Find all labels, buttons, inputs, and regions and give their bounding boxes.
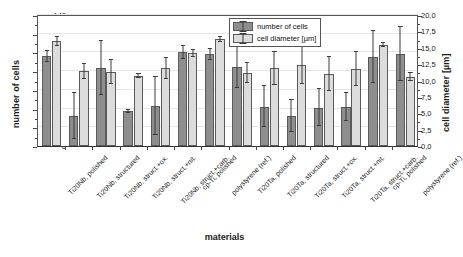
y-tick-label-right: 0,0 xyxy=(421,142,431,151)
bar-group xyxy=(337,14,364,146)
error-cap xyxy=(218,41,222,42)
x-category-label: polystyrene (ref.) xyxy=(421,154,463,196)
bar-cell-diameter xyxy=(79,71,88,146)
error-bar xyxy=(237,47,238,88)
error-cap xyxy=(44,61,48,62)
error-cap xyxy=(272,51,276,52)
bar-cell-diameter-rect xyxy=(188,53,197,146)
bar-cell-diameter-rect xyxy=(243,73,252,146)
bar-group xyxy=(201,14,228,146)
x-tick xyxy=(365,146,366,150)
error-bar xyxy=(264,86,265,127)
bar-cell-diameter xyxy=(215,39,224,146)
x-tick xyxy=(65,146,66,150)
error-cap xyxy=(381,46,385,47)
error-cap xyxy=(208,48,212,49)
error-cap xyxy=(126,112,130,113)
bar-cell-diameter xyxy=(351,69,360,146)
error-cap xyxy=(344,92,348,93)
bar-cell-diameter xyxy=(188,53,197,146)
error-bar xyxy=(301,45,302,84)
y-tick-label-right: 5,0 xyxy=(421,109,431,118)
bar-number-of-cells xyxy=(287,116,296,146)
bar-cell-diameter xyxy=(297,65,306,146)
bar-group xyxy=(365,14,392,146)
error-cap xyxy=(208,59,212,60)
error-cap xyxy=(44,50,48,51)
error-bar xyxy=(165,58,166,79)
x-tick xyxy=(337,146,338,150)
bar-cell-diameter xyxy=(379,45,388,146)
error-bar xyxy=(373,31,374,83)
bar-cell-diameter-rect xyxy=(79,71,88,146)
error-cap xyxy=(371,30,375,31)
bar-cell-diameter-rect xyxy=(379,45,388,146)
error-cap xyxy=(153,134,157,135)
error-cap xyxy=(408,72,412,73)
y-tick-left xyxy=(33,147,37,148)
error-bar xyxy=(345,93,346,121)
x-tick xyxy=(229,146,230,150)
error-cap xyxy=(317,125,321,126)
bar-number-of-cells xyxy=(260,107,269,146)
error-cap xyxy=(354,51,358,52)
error-cap xyxy=(354,85,358,86)
error-cap xyxy=(327,56,331,57)
error-bar xyxy=(100,41,101,95)
error-cap xyxy=(163,57,167,58)
y-tick-label-right: 2,5 xyxy=(421,126,431,135)
legend-label-cells: number of cells xyxy=(257,22,308,31)
bar-cell-diameter xyxy=(243,73,252,146)
bar-group xyxy=(38,14,65,146)
error-cap xyxy=(99,40,103,41)
error-cap xyxy=(72,92,76,93)
bar-cell-diameter-rect xyxy=(161,68,170,146)
bar-number-of-cells xyxy=(178,52,187,146)
bar-number-of-cells-rect xyxy=(205,54,214,146)
error-cap xyxy=(72,138,76,139)
x-axis-title: materials xyxy=(0,232,449,242)
error-cap xyxy=(218,36,222,37)
y-tick-label-right: 15,0 xyxy=(421,44,436,53)
bar-cell-diameter-rect xyxy=(406,77,415,146)
x-tick xyxy=(310,146,311,150)
error-cap xyxy=(180,45,184,46)
x-tick xyxy=(392,146,393,150)
bar-cell-diameter xyxy=(406,77,415,146)
error-cap xyxy=(55,45,59,46)
error-cap xyxy=(99,94,103,95)
bar-group xyxy=(147,14,174,146)
bar-number-of-cells-rect xyxy=(123,111,132,146)
error-cap xyxy=(126,109,130,110)
x-tick xyxy=(92,146,93,150)
error-cap xyxy=(327,90,331,91)
error-cap xyxy=(398,80,402,81)
bar-cell-diameter xyxy=(52,41,61,146)
error-cap xyxy=(109,59,113,60)
legend-item-cells: number of cells xyxy=(233,21,316,32)
error-cap xyxy=(289,99,293,100)
error-cap xyxy=(136,77,140,78)
x-tick xyxy=(256,146,257,150)
error-cap xyxy=(82,63,86,64)
bar-number-of-cells-rect xyxy=(178,52,187,146)
error-cap xyxy=(153,76,157,77)
error-bar xyxy=(111,60,112,84)
y-tick-label-right: 17,5 xyxy=(421,27,436,36)
error-cap xyxy=(371,82,375,83)
bar-cell-diameter-rect xyxy=(134,76,143,146)
error-bar xyxy=(400,27,401,81)
bar-number-of-cells xyxy=(396,54,405,146)
error-cap xyxy=(289,131,293,132)
plot-area xyxy=(37,15,418,147)
error-cap xyxy=(163,78,167,79)
error-cap xyxy=(180,58,184,59)
bar-number-of-cells xyxy=(42,56,51,146)
error-bar xyxy=(274,52,275,86)
bar-number-of-cells xyxy=(205,54,214,146)
x-tick xyxy=(120,146,121,150)
bar-cell-diameter xyxy=(270,68,279,146)
legend-item-diameter: cell diameter [µm] xyxy=(233,33,316,44)
legend-swatch-diameter xyxy=(233,34,253,43)
